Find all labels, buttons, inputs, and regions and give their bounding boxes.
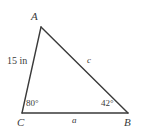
angle-label-b: 42°: [101, 99, 114, 108]
side-ab-line: [41, 27, 128, 113]
side-label-c: c: [87, 56, 91, 65]
angle-label-c: 80°: [26, 99, 39, 108]
side-length-label-ac: 15 in: [7, 56, 27, 66]
vertex-label-a: A: [31, 11, 38, 22]
vertex-label-c: C: [17, 117, 24, 128]
geometry-figure: A C B c a 15 in 80° 42°: [0, 0, 145, 135]
vertex-label-b: B: [124, 117, 131, 128]
side-label-a: a: [72, 116, 77, 125]
